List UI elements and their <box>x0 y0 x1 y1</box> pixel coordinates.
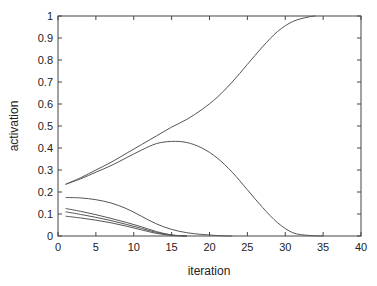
y-axis-label: activation <box>7 101 21 152</box>
x-tick-label: 0 <box>55 241 61 253</box>
y-tick-label: 0.1 <box>38 208 53 220</box>
line-chart: 0510152025303540 00.10.20.30.40.50.60.70… <box>0 0 377 286</box>
y-tick-label: 0.9 <box>38 32 53 44</box>
y-tick-label: 0 <box>47 230 53 242</box>
x-tick-label: 35 <box>317 241 329 253</box>
y-tick-label: 0.4 <box>38 142 53 154</box>
y-tick-label: 0.7 <box>38 76 53 88</box>
y-axis-ticks: 00.10.20.30.40.50.60.70.80.91 <box>38 10 361 242</box>
x-tick-label: 40 <box>355 241 367 253</box>
x-tick-label: 5 <box>93 241 99 253</box>
series-line-4 <box>66 209 187 237</box>
series-line-5 <box>66 212 187 236</box>
series-line-6 <box>66 216 187 236</box>
x-axis-label: iteration <box>188 264 231 278</box>
series-line-1 <box>66 16 316 184</box>
y-tick-label: 0.5 <box>38 120 53 132</box>
y-tick-label: 0.3 <box>38 164 53 176</box>
x-tick-label: 25 <box>241 241 253 253</box>
y-tick-label: 0.6 <box>38 98 53 110</box>
plot-frame <box>58 16 361 236</box>
x-tick-label: 10 <box>128 241 140 253</box>
x-tick-label: 30 <box>279 241 291 253</box>
y-tick-label: 1 <box>47 10 53 22</box>
x-tick-label: 15 <box>166 241 178 253</box>
x-tick-label: 20 <box>203 241 215 253</box>
x-axis-ticks: 0510152025303540 <box>55 16 367 253</box>
plot-border <box>58 16 361 236</box>
y-tick-label: 0.2 <box>38 186 53 198</box>
y-tick-label: 0.8 <box>38 54 53 66</box>
series-lines <box>66 16 324 236</box>
